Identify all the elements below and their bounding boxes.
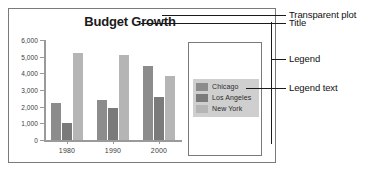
leader-bracket-legend: [271, 22, 272, 144]
y-axis-tick: [40, 140, 44, 141]
legend-item[interactable]: Los Angeles: [193, 92, 259, 103]
annotation-legend: Legend: [289, 53, 320, 64]
legend-item-label: Los Angeles: [212, 94, 251, 101]
leader-line-transparent-plot: [162, 15, 286, 16]
x-axis-tick-label: 1990: [105, 147, 121, 154]
legend-item-label: Chicago: [212, 83, 238, 90]
leader-line-title: [141, 23, 286, 24]
y-axis-tick-label: 0: [34, 137, 38, 144]
y-axis-tick: [40, 40, 44, 41]
plot-area: 01,0002,0003,0004,0005,0006,000 19801990…: [44, 40, 182, 140]
bar: [154, 97, 164, 140]
bar: [119, 55, 129, 140]
legend-item[interactable]: Chicago: [193, 81, 259, 92]
legend-swatch-icon: [196, 83, 208, 91]
legend-entries: ChicagoLos AngelesNew York: [193, 79, 259, 117]
bar: [51, 103, 61, 140]
bar: [143, 66, 153, 140]
bar: [97, 100, 107, 140]
x-axis-tick: [159, 140, 160, 144]
y-axis-tick: [40, 123, 44, 124]
leader-line-legend-text: [246, 88, 286, 89]
annotation-title: Title: [289, 17, 306, 28]
x-axis-tick-label: 1980: [59, 147, 75, 154]
x-axis-tick: [113, 140, 114, 144]
legend-item[interactable]: New York: [193, 103, 259, 114]
annotation-legend-text: Legend text: [289, 82, 338, 93]
y-axis-tick: [40, 73, 44, 74]
legend-swatch-icon: [196, 94, 208, 102]
y-axis-tick: [40, 90, 44, 91]
bar: [165, 76, 175, 140]
bar: [73, 53, 83, 141]
bar: [62, 123, 72, 141]
chart-annotation-screenshot: Budget Growth 01,0002,0003,0004,0005,000…: [0, 0, 378, 171]
y-axis-tick-label: 6,000: [21, 37, 38, 44]
y-axis-line: [44, 40, 46, 140]
y-axis-tick: [40, 57, 44, 58]
leader-line-legend: [271, 59, 286, 60]
y-axis-tick-label: 1,000: [21, 120, 38, 127]
x-axis-tick: [67, 140, 68, 144]
y-axis-tick: [40, 107, 44, 108]
y-axis-tick-label: 4,000: [21, 70, 38, 77]
bar: [108, 108, 118, 140]
y-axis-tick-label: 3,000: [21, 87, 38, 94]
legend-box[interactable]: ChicagoLos AngelesNew York: [188, 42, 262, 156]
x-axis-tick-label: 2000: [151, 147, 167, 154]
legend-swatch-icon: [196, 105, 208, 113]
y-axis-tick-label: 2,000: [21, 103, 38, 110]
legend-item-label: New York: [212, 105, 242, 112]
y-axis-tick-label: 5,000: [21, 53, 38, 60]
chart-title: Budget Growth: [60, 14, 200, 29]
